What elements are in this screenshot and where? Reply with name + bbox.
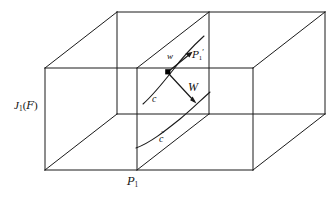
label-plane-front: P1	[127, 176, 138, 189]
label-plane-front-subscript: 1	[134, 181, 138, 189]
label-jet-close-paren: )	[34, 99, 38, 111]
label-plane-inner-script: P	[192, 49, 199, 60]
label-curve-c: c	[152, 94, 156, 104]
label-jet-bundle: J1(F)	[14, 100, 38, 113]
depth-edge-bottom-left	[45, 114, 117, 170]
box-diagram-svg	[0, 0, 329, 197]
label-vector-W-upper: W	[188, 81, 198, 93]
figure-canvas: J1(F) P1 P1′ w W c c ̃	[0, 0, 329, 197]
label-curve-c-tilde-letter: c	[159, 133, 163, 144]
label-plane-inner: P1′	[192, 49, 204, 61]
marked-point	[165, 69, 170, 74]
box-front-face	[45, 68, 253, 170]
label-plane-inner-prime: ′	[202, 48, 204, 57]
depth-edge-top-right	[253, 12, 325, 68]
depth-edge-bottom-right	[253, 114, 325, 170]
label-curve-c-tilde: c ̃	[159, 134, 163, 144]
depth-edge-top-left	[45, 12, 117, 68]
label-vector-w-lower: w	[167, 52, 173, 61]
label-jet-script-f: F	[26, 99, 34, 112]
internal-section-plane	[137, 12, 209, 170]
